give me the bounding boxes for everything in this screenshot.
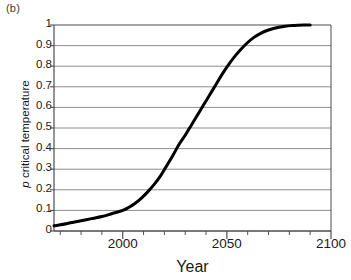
x-tick-label: 2000 bbox=[93, 236, 153, 251]
data-curve bbox=[54, 25, 310, 226]
x-tick-label: 2100 bbox=[301, 236, 351, 251]
x-axis-title: Year bbox=[54, 258, 331, 276]
gridlines bbox=[54, 25, 331, 231]
x-tick-label: 2050 bbox=[197, 236, 257, 251]
